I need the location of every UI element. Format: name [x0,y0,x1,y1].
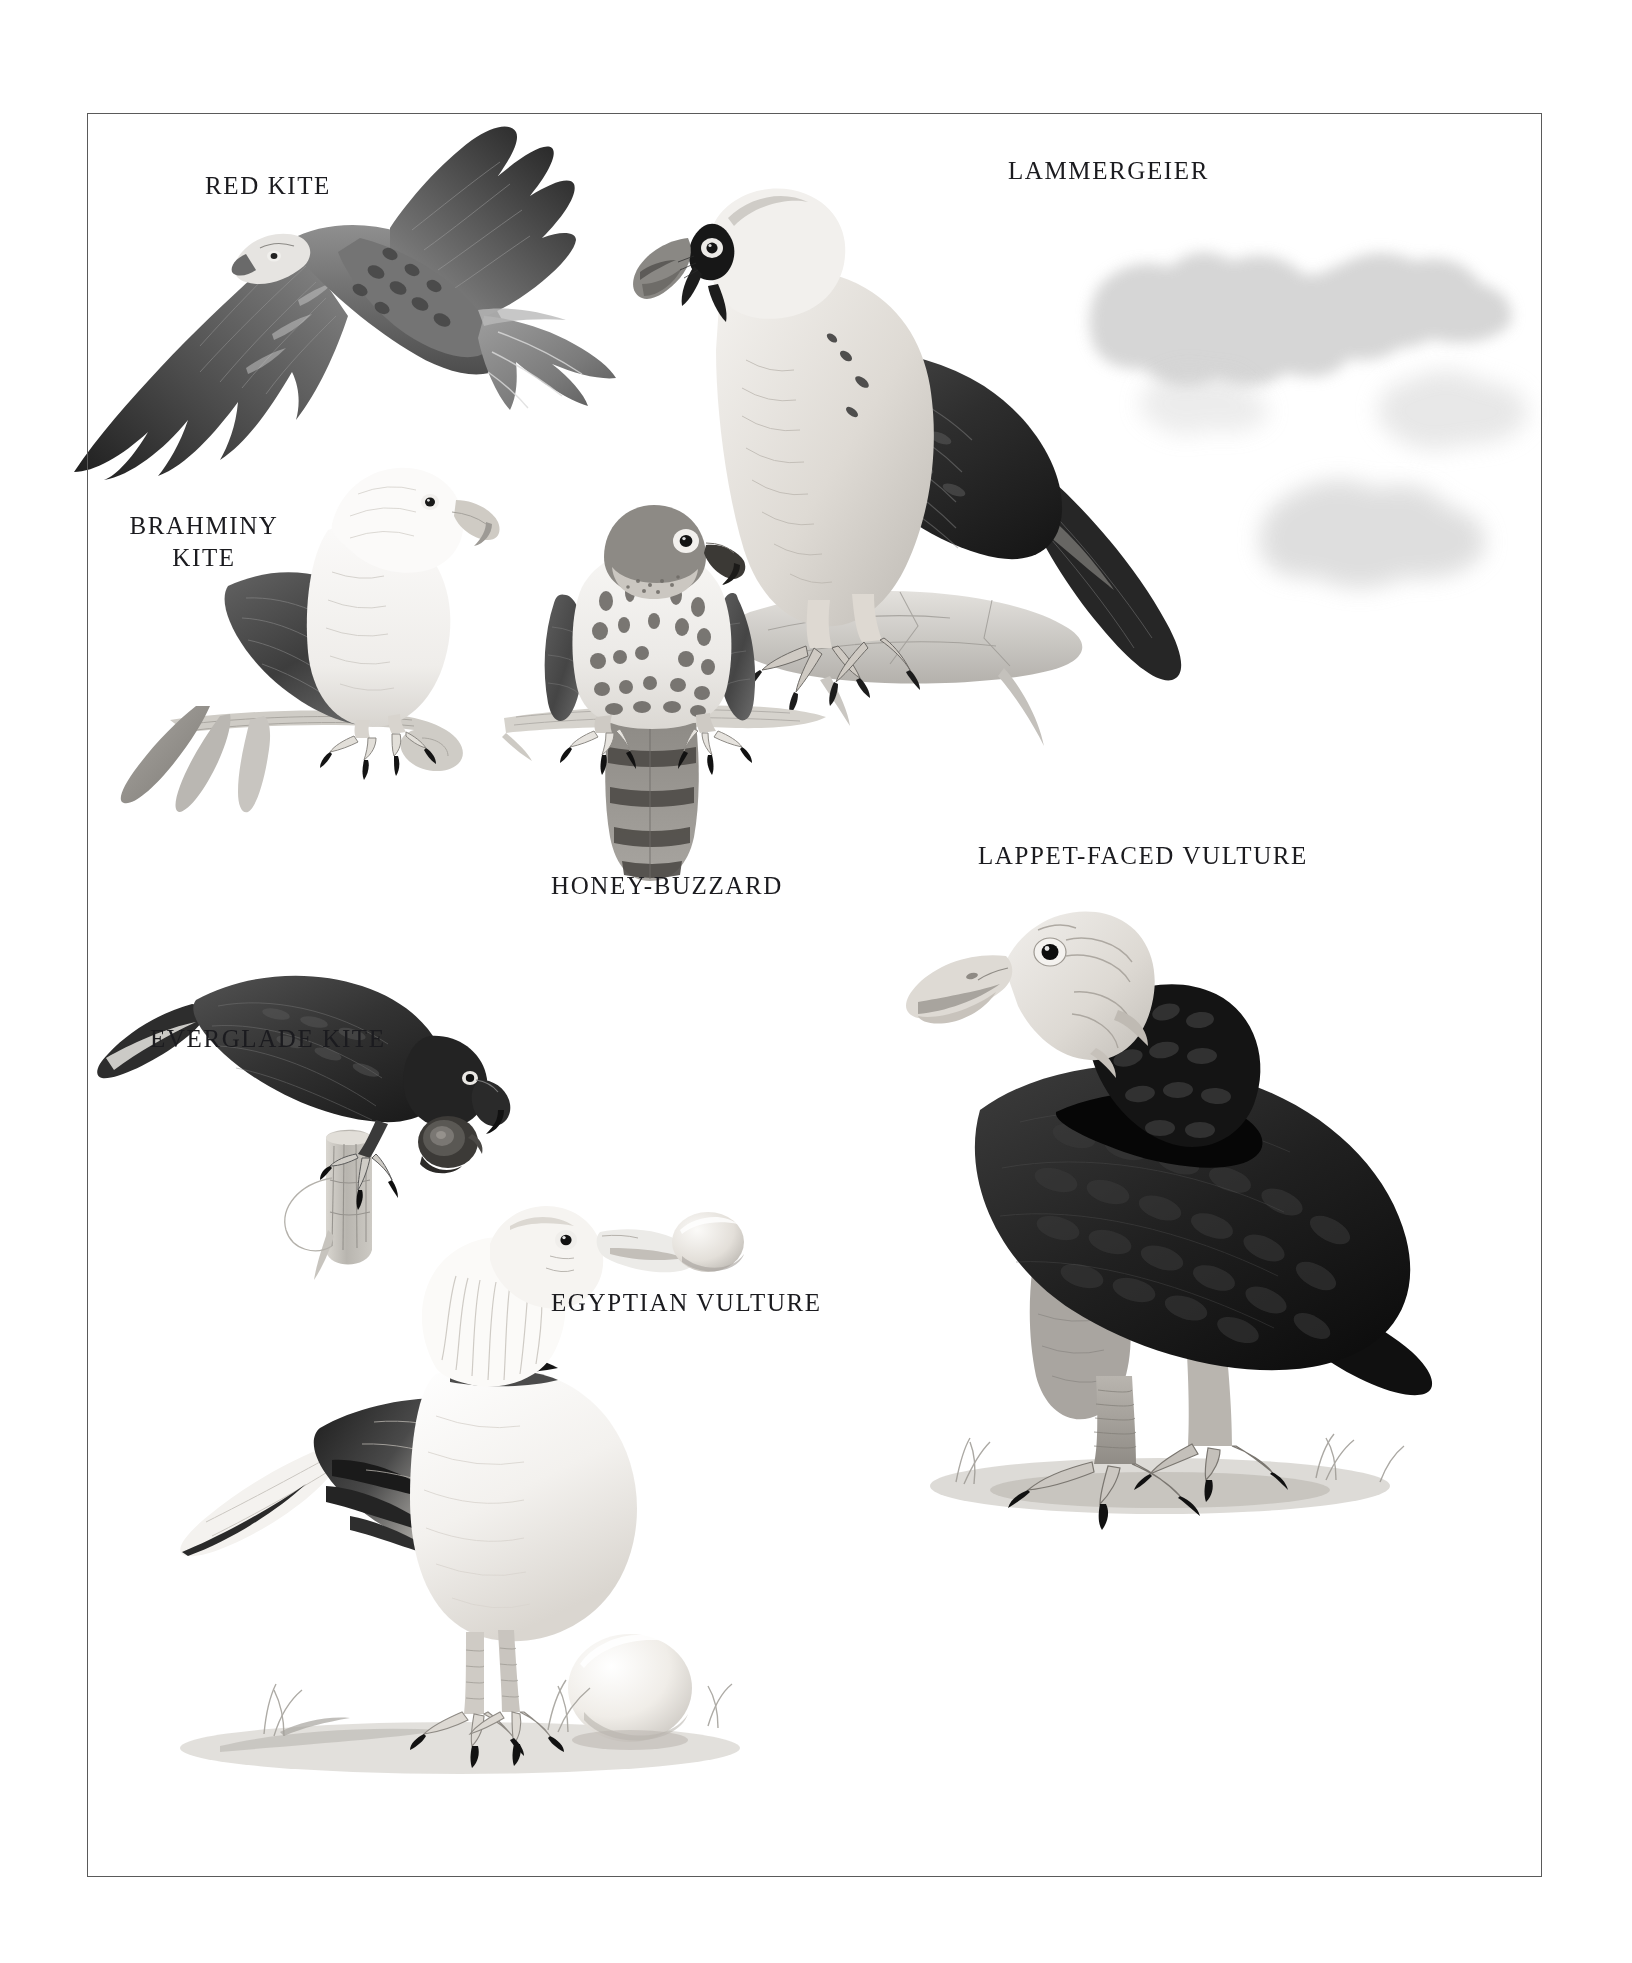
bird-honey-buzzard [500,495,830,885]
label-brahminy-kite-line1: BRAHMINY [130,512,279,539]
stone-in-bill [672,1212,744,1272]
label-egyptian-vulture: EGYPTIAN VULTURE [551,1287,822,1319]
bird-egyptian-vulture [160,1160,760,1800]
label-everglade-kite: EVERGLADE KITE [150,1023,386,1055]
label-lammergeier: LAMMERGEIER [1008,155,1209,187]
bird-lappet-faced-vulture [860,890,1480,1570]
label-honey-buzzard: HONEY-BUZZARD [551,870,783,902]
label-brahminy-kite: BRAHMINY KITE [124,510,284,574]
illustration-plate: RED KITE LAMMERGEIER BRAHMINY KITE HONEY… [0,0,1632,1963]
label-red-kite: RED KITE [205,170,331,202]
bird-brahminy-kite [100,420,540,840]
label-lappet-faced-vulture: LAPPET-FACED VULTURE [978,840,1308,872]
label-brahminy-kite-line2: KITE [172,544,235,571]
